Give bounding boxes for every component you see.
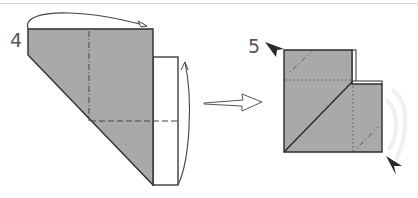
faint-watermark-decoration xyxy=(386,90,405,160)
step-4: 4 xyxy=(10,13,189,185)
step-number-5: 5 xyxy=(248,35,260,57)
fold-over-arrow xyxy=(27,13,147,29)
colored-paper-shape xyxy=(28,29,153,185)
fold-up-arrow xyxy=(178,62,189,185)
step-5: 5 xyxy=(248,35,405,175)
pointer-top-left-icon xyxy=(265,42,284,57)
hollow-right-arrow-icon xyxy=(204,94,262,111)
step-number-4: 4 xyxy=(10,29,22,51)
pointer-bottom-right-icon xyxy=(386,156,402,175)
fold-up-arrowhead-icon xyxy=(181,62,188,70)
fold-over-arrowhead-icon xyxy=(138,21,147,27)
origami-diagram: 4 5 xyxy=(0,0,418,198)
transition-arrow xyxy=(204,94,262,111)
